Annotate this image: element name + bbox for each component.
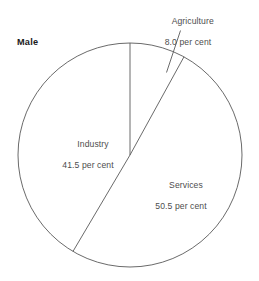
slice-label-agriculture: Agriculture 8.0 per cent [162,5,214,68]
slice-label-services-value: 50.5 per cent [155,201,206,212]
pie-chart-figure: Male Agriculture 8.0 per cent Industry 4… [0,0,259,281]
slice-label-industry-name: Industry [77,139,108,149]
slice-label-services-name: Services [169,180,203,190]
series-title: Male [17,37,38,48]
slice-label-industry: Industry 41.5 per cent [62,128,113,191]
slice-label-agriculture-value: 8.0 per cent [162,37,214,48]
slice-label-agriculture-name: Agriculture [172,16,214,26]
slice-label-services: Services 50.5 per cent [155,169,206,232]
slice-label-industry-value: 41.5 per cent [62,160,113,171]
pie-chart-canvas [0,0,259,281]
